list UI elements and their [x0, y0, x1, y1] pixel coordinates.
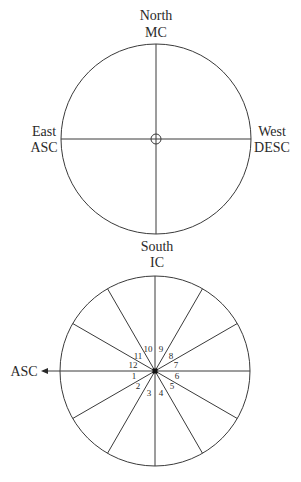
- house-number-5: 5: [170, 381, 175, 391]
- asc-label-top: ASC: [30, 140, 57, 155]
- house-number-2: 2: [136, 381, 141, 391]
- mc-label: MC: [145, 25, 167, 40]
- arrow-left-icon: [41, 368, 48, 374]
- house-number-9: 9: [159, 344, 164, 354]
- north-label: North: [140, 8, 173, 23]
- west-label: West: [258, 124, 286, 139]
- house-number-10: 10: [144, 344, 154, 354]
- bottom-chart: [43, 276, 250, 466]
- east-label: East: [32, 124, 56, 139]
- house-number-8: 8: [169, 351, 174, 361]
- house-number-6: 6: [175, 371, 180, 381]
- house-number-1: 1: [132, 371, 137, 381]
- asc-label-bottom: ASC: [10, 364, 37, 379]
- house-number-7: 7: [174, 360, 179, 370]
- house-number-4: 4: [159, 388, 164, 398]
- astrology-diagrams: North MC East ASC West DESC South IC ASC…: [0, 0, 301, 482]
- south-label: South: [141, 239, 174, 254]
- ic-label: IC: [150, 255, 164, 270]
- top-chart: [61, 44, 251, 234]
- house-number-12: 12: [129, 360, 138, 370]
- desc-label: DESC: [254, 140, 290, 155]
- house-number-3: 3: [147, 388, 152, 398]
- center-point: [153, 369, 158, 374]
